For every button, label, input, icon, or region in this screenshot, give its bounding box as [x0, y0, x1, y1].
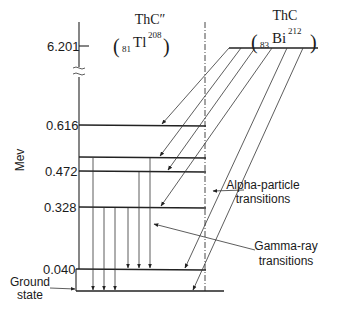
tick-label-0472: 0.472	[45, 164, 78, 179]
alpha-label-line1: Alpha-particle	[226, 178, 300, 192]
level-0472	[79, 171, 206, 172]
svg-text:): )	[163, 35, 170, 58]
tick-label-0328: 0.328	[44, 200, 77, 215]
svg-text:212: 212	[288, 26, 302, 36]
gamma-pointer	[154, 224, 255, 250]
svg-text:): )	[310, 31, 317, 54]
gamma-label-line2: transitions	[259, 254, 314, 268]
svg-text:81: 81	[122, 44, 131, 54]
parent-label: ThC ( 83 Bi 212 )	[251, 8, 317, 54]
gamma-label-line1: Gamma-ray	[254, 239, 317, 253]
svg-text:(: (	[251, 31, 258, 54]
level-0616	[79, 125, 206, 126]
ground-label-line2: state	[17, 288, 43, 302]
tick-label-0616: 0.616	[46, 118, 79, 133]
svg-text:Bi: Bi	[272, 30, 286, 46]
axis-unit-label: Mev	[13, 149, 27, 172]
level-0328	[79, 207, 206, 208]
ground-label-line1: Ground	[10, 275, 50, 289]
svg-text:Tl: Tl	[133, 34, 146, 50]
svg-text:ThC: ThC	[273, 8, 298, 23]
axis-break-icon	[73, 67, 85, 75]
level-0493	[79, 157, 206, 158]
level-0040	[76, 269, 206, 270]
svg-text:208: 208	[148, 30, 162, 40]
tick-label-6201: 6.201	[47, 39, 80, 54]
daughter-label: ThC″ ( 81 Tl 208 )	[113, 12, 170, 58]
alpha-label-line2: transitions	[236, 192, 291, 206]
svg-text:(: (	[113, 35, 120, 58]
svg-text:ThC″: ThC″	[135, 12, 166, 27]
ground-pointer	[50, 288, 75, 289]
decay-scheme-diagram: 6.201 0.616 0.472 0.328 0.040 Mev ThC″ (…	[0, 0, 345, 310]
